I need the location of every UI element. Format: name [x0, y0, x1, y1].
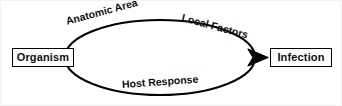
node-organism: Organism [12, 48, 74, 67]
figure-canvas: Organism Infection Anatomic Area Local F… [0, 0, 342, 106]
node-infection: Infection [270, 48, 332, 67]
node-organism-label: Organism [17, 52, 70, 63]
arrowhead-icon [248, 49, 268, 66]
node-infection-label: Infection [277, 52, 324, 63]
